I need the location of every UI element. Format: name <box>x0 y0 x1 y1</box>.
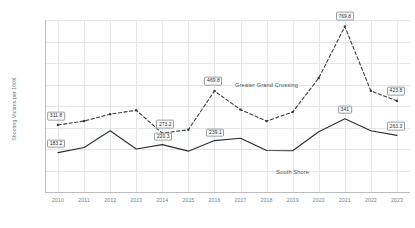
gridline-vertical <box>162 20 163 192</box>
gridline-vertical <box>188 20 189 192</box>
gridline-vertical <box>397 20 398 192</box>
data-point-label: 311.8 <box>47 112 65 121</box>
gridline-vertical <box>241 20 242 192</box>
gridline-vertical <box>293 20 294 192</box>
gridline-horizontal <box>45 106 410 107</box>
gridline-vertical <box>267 20 268 192</box>
gridline-horizontal <box>45 20 410 21</box>
data-point-label: 239.1 <box>206 128 224 137</box>
gridline-vertical <box>136 20 137 192</box>
data-point-label: 341 <box>338 105 352 114</box>
y-axis-line <box>45 20 46 192</box>
data-point-label: 769.8 <box>336 12 354 21</box>
y-axis-title: Shooting Victims per 100K <box>11 44 17 174</box>
gridline-horizontal <box>45 149 410 150</box>
data-point-label: 183.2 <box>47 139 65 148</box>
gridline-horizontal <box>45 171 410 172</box>
data-point-label: 469.8 <box>204 77 222 86</box>
series-name-annotation: South Shore <box>276 169 309 175</box>
x-axis-tick-label: 2023 <box>382 197 412 203</box>
gridline-vertical <box>214 20 215 192</box>
gridline-vertical <box>371 20 372 192</box>
data-point-label: 423.8 <box>387 87 405 96</box>
data-point-label: 273.2 <box>156 120 174 129</box>
gridline-horizontal <box>45 85 410 86</box>
gridline-vertical <box>58 20 59 192</box>
gridline-vertical <box>84 20 85 192</box>
data-point-label: 263.3 <box>387 122 405 131</box>
gridline-horizontal <box>45 128 410 129</box>
gridline-vertical <box>319 20 320 192</box>
gridline-vertical <box>110 20 111 192</box>
plot-area <box>45 20 410 192</box>
data-point-label: 220.3 <box>154 132 172 141</box>
gridline-horizontal <box>45 63 410 64</box>
line-chart: Shooting Victims per 100K 01002003004005… <box>0 0 415 228</box>
series-name-annotation: Greater Grand Crossing <box>235 82 298 88</box>
x-axis-line <box>45 192 410 193</box>
gridline-horizontal <box>45 42 410 43</box>
